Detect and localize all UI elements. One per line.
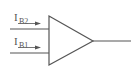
label-sub: B1 (19, 41, 28, 50)
label-main: I (14, 11, 18, 23)
label-main: I (14, 35, 18, 47)
label-sub: B2 (19, 17, 28, 26)
amplifier-triangle (49, 16, 93, 65)
op-amp-diagram: I B2 I B1 (0, 0, 138, 68)
